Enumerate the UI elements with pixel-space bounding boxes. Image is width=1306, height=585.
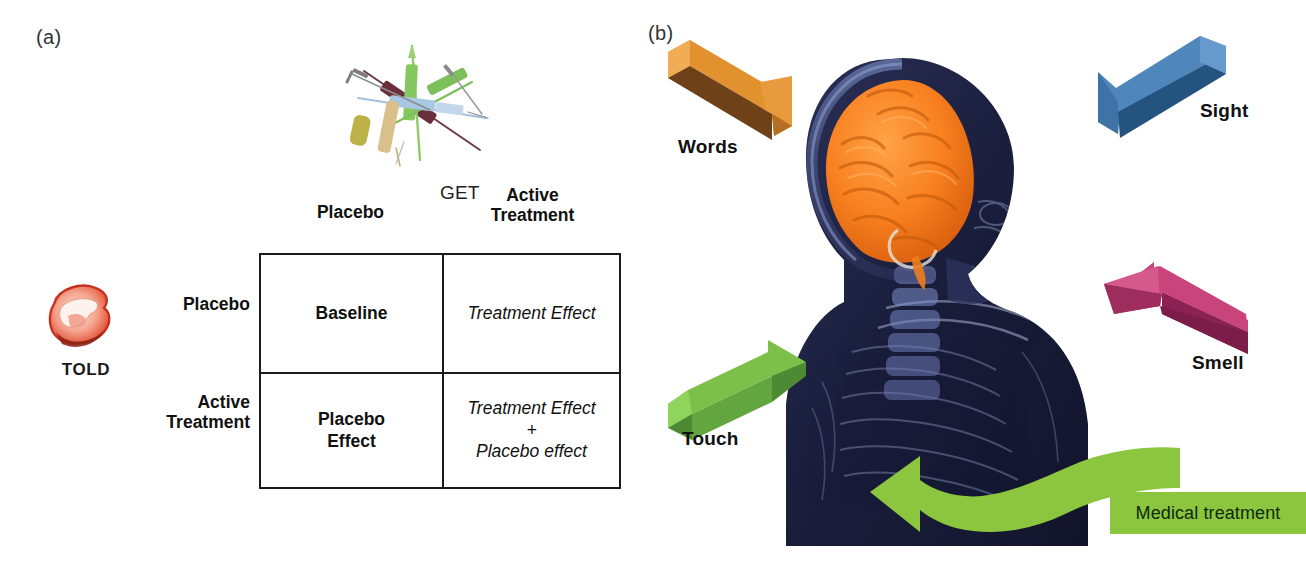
mouth-lips-icon [30,272,142,358]
matrix-row-header-active-line1: Active [108,393,250,413]
medical-treatment-banner: Medical treatment [1110,492,1306,534]
matrix-column-header-placebo: Placebo [263,203,438,223]
words-arrow-label: Words [678,136,738,158]
matrix-cell-combined-line1: Treatment Effect [467,398,595,419]
matrix-column-header-active-line1: Active [445,186,620,206]
matrix-row-header-active-treatment: Active Treatment [108,393,250,433]
medical-treatment-label: Medical treatment [1136,503,1281,524]
panel-b: (b) [640,0,1306,585]
panel-a-label: (a) [36,26,61,49]
panel-a: (a) [0,0,640,585]
matrix-cell-placebo-effect-line1: Placebo [318,409,385,430]
told-label: TOLD [30,360,142,380]
touch-arrow-label: Touch [682,428,739,450]
matrix-column-header-active-treatment: Active Treatment [445,186,620,225]
matrix-cell-combined-line2: + [467,420,595,441]
matrix-cell-treatment-effect: Treatment Effect [444,255,619,374]
sight-arrow-label: Sight [1200,100,1249,122]
matrix-cell-baseline: Baseline [261,255,444,374]
matrix-cell-placebo-effect-line2: Effect [318,431,385,452]
sight-arrow [1080,30,1240,160]
told-group: TOLD [30,272,142,392]
syringes-icon [330,38,495,170]
matrix-cell-placebo-effect: Placebo Effect [261,374,444,487]
matrix-row-header-active-line2: Treatment [108,413,250,433]
matrix-cell-treatment-plus-placebo: Treatment Effect + Placebo effect [444,374,619,487]
smell-arrow-label: Smell [1192,352,1244,374]
matrix-column-header-active-line2: Treatment [445,206,620,226]
figure-root: (a) [0,0,1306,585]
matrix-row-header-placebo: Placebo [120,295,250,315]
matrix-cell-combined-line3: Placebo effect [467,441,595,462]
placebo-matrix-table: Baseline Treatment Effect Placebo Effect… [259,253,621,489]
